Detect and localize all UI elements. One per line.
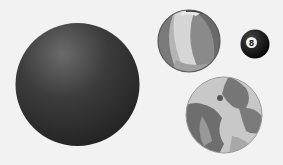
globe xyxy=(184,76,264,154)
dark-sphere xyxy=(14,22,141,147)
eight-ball: 8 xyxy=(240,29,270,59)
beach-ball xyxy=(156,8,222,74)
eight-ball-label: 8 xyxy=(249,38,254,48)
